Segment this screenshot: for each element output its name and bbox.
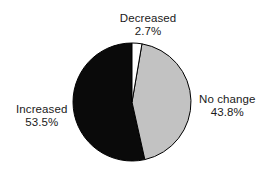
pie-label-decreased-name: Decreased [22,12,274,25]
pie-chart-figure: Decreased 2.7% No change 43.8% Increased… [0,0,274,177]
pie-label-no-change: No change 43.8% [199,93,256,119]
pie-slice-no-change [132,44,191,160]
pie-label-increased: Increased 53.5% [16,103,67,129]
pie-label-decreased-value: 2.7% [22,25,274,38]
pie-label-no-change-value: 43.8% [199,106,256,119]
pie-label-increased-name: Increased [16,103,67,116]
pie-label-no-change-name: No change [199,93,256,106]
pie-label-decreased: Decreased 2.7% [0,12,274,38]
pie-label-increased-value: 53.5% [16,116,67,129]
